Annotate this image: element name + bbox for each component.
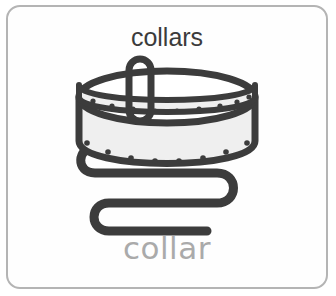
collar-drawing	[67, 55, 267, 240]
page-title: collars	[8, 23, 326, 51]
dog-collar-illustration	[67, 55, 267, 240]
caption-label: collar	[8, 231, 326, 265]
flashcard: collars	[6, 5, 328, 289]
